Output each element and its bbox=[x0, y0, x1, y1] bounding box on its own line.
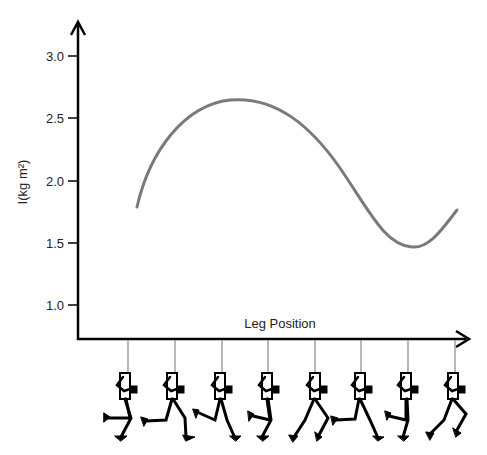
runner-figure-1-icon bbox=[104, 373, 136, 441]
y-tick-label: 3.0 bbox=[46, 49, 64, 64]
x-axis: Leg Position bbox=[77, 316, 469, 372]
y-axis: 3.0 2.5 2.0 1.5 1.0 I(kg m²) bbox=[15, 22, 85, 340]
x-tick-drops bbox=[128, 340, 455, 372]
y-tick-label: 2.0 bbox=[46, 174, 64, 189]
x-axis-title: Leg Position bbox=[244, 316, 316, 331]
y-tick-label: 2.5 bbox=[46, 111, 64, 126]
runner-figure-4-icon bbox=[248, 373, 278, 441]
runner-figure-8-icon bbox=[426, 373, 466, 440]
runner-figure-2-icon bbox=[141, 373, 195, 441]
runner-figure-5-icon bbox=[289, 373, 328, 442]
inertia-chart: 3.0 2.5 2.0 1.5 1.0 I(kg m²) Leg Positio… bbox=[0, 0, 487, 455]
runner-figure-6-icon bbox=[331, 373, 384, 441]
inertia-curve bbox=[137, 100, 457, 247]
y-axis-title: I(kg m²) bbox=[15, 160, 30, 205]
y-tick-label: 1.0 bbox=[46, 298, 64, 313]
y-tick-label: 1.5 bbox=[46, 236, 64, 251]
runner-figure-3-icon bbox=[193, 373, 241, 441]
runner-figure-7-icon bbox=[385, 373, 417, 441]
